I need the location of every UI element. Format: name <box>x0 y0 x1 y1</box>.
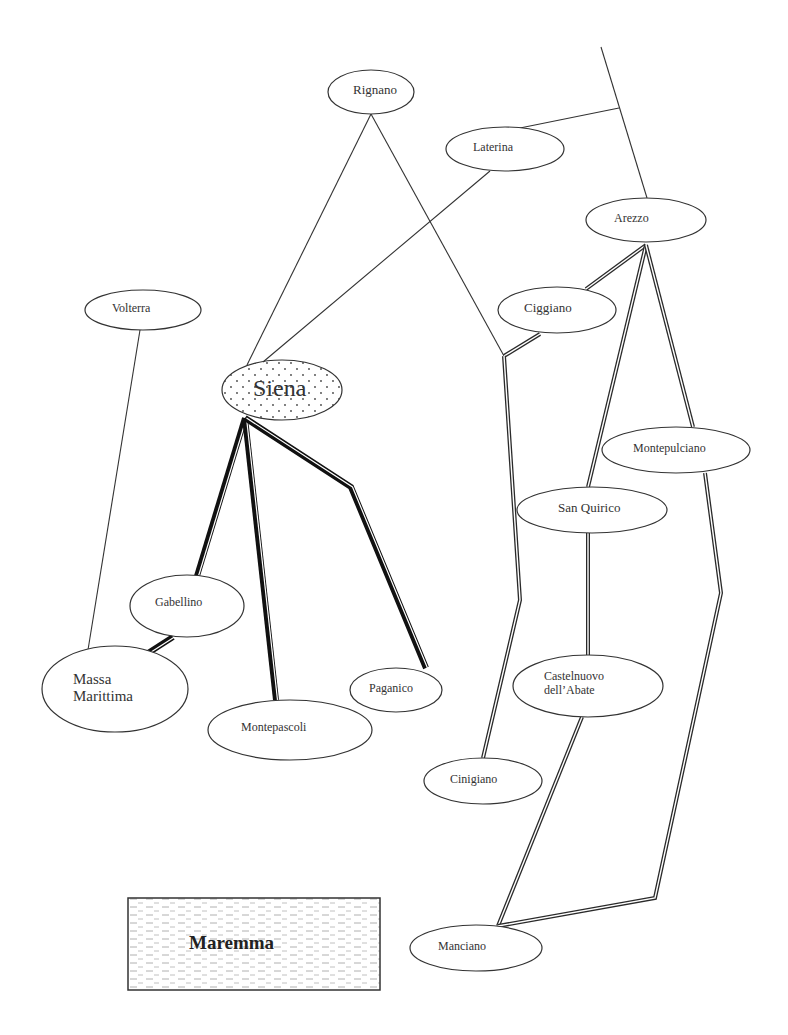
node-label-siena: Siena <box>253 375 306 403</box>
node-label-arezzo: Arezzo <box>614 212 649 226</box>
node-label-castelnuovo: Castelnuovo dell’Abate <box>544 670 604 698</box>
road-heavy-siena-montepascoli <box>245 418 276 700</box>
road-heavy-siena-gabellino <box>197 418 245 576</box>
node-label-rignano: Rignano <box>353 83 397 98</box>
node-label-montepulciano: Montepulciano <box>633 442 706 456</box>
road-heavy-siena-paganico <box>245 418 426 668</box>
node-label-gabellino: Gabellino <box>155 596 202 610</box>
diagram-canvas <box>0 0 788 1035</box>
node-label-laterina: Laterina <box>473 141 513 155</box>
node-label-san_quirico: San Quirico <box>558 501 620 516</box>
node-label-paganico: Paganico <box>369 682 413 696</box>
node-label-ciggiano: Ciggiano <box>524 301 572 316</box>
node-label-massa: Massa Marittima <box>73 671 133 706</box>
nodes-layer <box>42 70 750 971</box>
node-label-manciano: Manciano <box>438 940 486 954</box>
maremma-label: Maremma <box>189 932 274 954</box>
road-thin-laterina <box>263 171 490 362</box>
road-double-junction-cinigiano <box>483 356 520 758</box>
road-thin-rignano <box>247 114 371 365</box>
edges-layer <box>87 47 721 926</box>
road-thin-laterina <box>520 108 619 128</box>
node-label-montepascoli: Montepascoli <box>241 721 306 735</box>
road-thin-arezzo <box>601 47 647 198</box>
node-label-cinigiano: Cinigiano <box>450 773 497 787</box>
node-label-volterra: Volterra <box>112 302 150 316</box>
